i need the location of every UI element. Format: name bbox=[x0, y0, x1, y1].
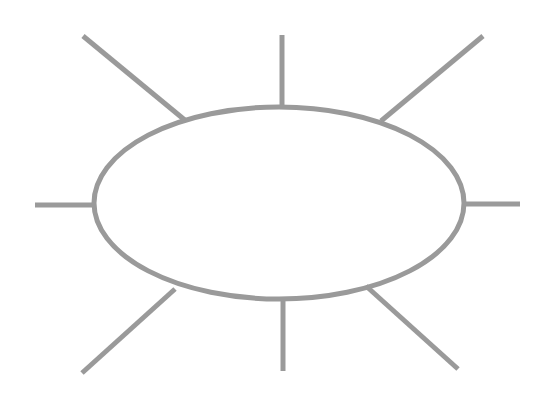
spokes-group bbox=[35, 35, 520, 373]
spoke-bottom-right bbox=[366, 286, 458, 369]
spoke-bottom-left bbox=[82, 289, 175, 373]
spoke-top-right bbox=[381, 36, 483, 121]
spoke-top-left bbox=[83, 36, 186, 121]
spider-diagram bbox=[0, 0, 551, 409]
diagram-canvas bbox=[0, 0, 551, 409]
center-ellipse bbox=[94, 107, 464, 299]
